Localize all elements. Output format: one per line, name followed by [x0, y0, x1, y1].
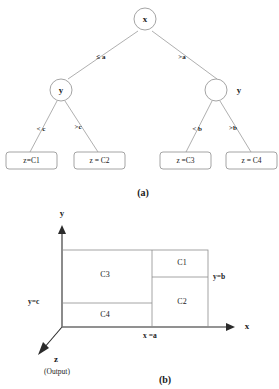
region-label-c3: C3 [100, 270, 109, 279]
region-label-c1: C1 [177, 258, 186, 267]
boundary-label-x-split: x =a [143, 331, 157, 340]
edge-label-left-gt-c: >c [74, 123, 81, 131]
right-node-circle [205, 79, 227, 101]
z-axis-line [44, 327, 62, 348]
tree-leaf-3[interactable]: z =C3 [160, 152, 211, 169]
leaf-1-label: z=C1 [23, 156, 40, 165]
right-node-label: y [237, 85, 242, 95]
x-axis-label: x [245, 321, 250, 331]
y-axis-arrow-icon [58, 225, 66, 234]
x-axis-arrow-icon [226, 323, 235, 331]
caption-a: (a) [137, 187, 149, 199]
edge-label-root-left: ≤ a [96, 53, 106, 61]
tree-leaf-2[interactable]: z = C2 [74, 152, 125, 169]
edge-label-right-gt-b: >b [229, 124, 237, 132]
leaf-2-label: z = C2 [89, 156, 109, 165]
figure-root: x y y ≤ a >a < c >c < b >b [0, 0, 279, 389]
tree-node-right-y[interactable]: y [205, 79, 242, 101]
tree-node-root[interactable]: x [134, 8, 156, 30]
boundary-label-y-b: y=b [213, 272, 225, 281]
decision-tree-figure: x y y ≤ a >a < c >c < b >b [6, 8, 277, 199]
partition-figure: y x z (Output) x =a y=c y=b C3 C1 [28, 208, 250, 386]
tree-leaf-1[interactable]: z=C1 [6, 152, 57, 169]
z-axis-label: z [54, 354, 58, 364]
leaf-3-label: z =C3 [176, 156, 194, 165]
root-node-label: x [143, 14, 148, 24]
tree-leaf-4[interactable]: z = C4 [226, 152, 277, 169]
tree-node-left-y[interactable]: y [50, 79, 72, 101]
region-label-c4: C4 [100, 310, 109, 319]
region-label-c2: C2 [177, 297, 186, 306]
z-axis-sublabel: (Output) [44, 367, 70, 376]
y-axis-label: y [60, 208, 65, 218]
caption-b: (b) [159, 374, 171, 386]
leaf-4-label: z = C4 [241, 156, 261, 165]
edge-label-right-lt-b: < b [192, 125, 202, 133]
boundary-label-y-c: y=c [28, 297, 40, 306]
left-node-label: y [59, 85, 64, 95]
edge-label-root-right: >a [178, 53, 186, 61]
edge-label-left-lt-c: < c [37, 125, 46, 133]
